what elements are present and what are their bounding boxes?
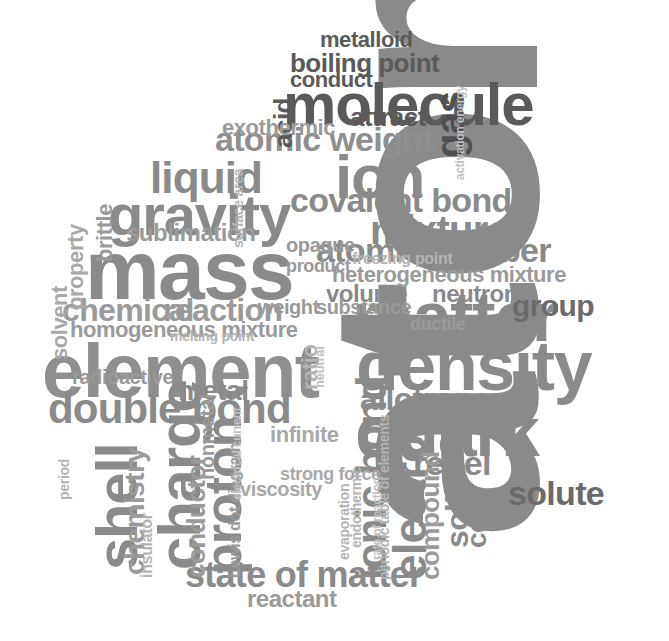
cloud-word-property: property bbox=[66, 224, 86, 310]
cloud-word-electrical-current: electrical current bbox=[232, 408, 243, 500]
cloud-word-solute: solute bbox=[508, 478, 604, 509]
cloud-word-compound: compound bbox=[419, 451, 443, 580]
cloud-word-neutron: neutron bbox=[432, 283, 518, 305]
cloud-word-activation-energy: activation energy bbox=[455, 85, 466, 180]
cloud-word-neutral: neutral bbox=[314, 346, 326, 388]
cloud-word-strong-force: strong force bbox=[280, 466, 381, 483]
cloud-word-nonmetal: nonmetal bbox=[198, 394, 216, 480]
cloud-word-double-bond: double bond bbox=[48, 390, 291, 429]
cloud-word-substance: substance bbox=[316, 298, 411, 316]
word-cloud-canvas: atombondmasselementmatterdensityquarkmol… bbox=[0, 0, 669, 641]
cloud-word-group: group bbox=[512, 292, 594, 320]
cloud-word-opaque: opaque bbox=[286, 236, 355, 254]
cloud-word-allotrope: allotrope bbox=[360, 385, 489, 414]
cloud-word-surface-area: surface area bbox=[232, 169, 245, 248]
cloud-word-insulator: insulator bbox=[140, 513, 155, 578]
cloud-word-ductile: ductile bbox=[410, 316, 466, 333]
cloud-word-product: product bbox=[286, 258, 350, 275]
cloud-word-metalloid: metalloid bbox=[320, 30, 413, 50]
cloud-word-rate-of-reaction: rate of reaction bbox=[372, 477, 383, 560]
cloud-word-core: core bbox=[464, 491, 490, 548]
cloud-word-period: period bbox=[58, 459, 71, 500]
cloud-word-freezing-point: freezing point bbox=[352, 252, 452, 267]
cloud-word-melting-point: melting point bbox=[170, 330, 254, 343]
cloud-word-radioactive: radioactive bbox=[72, 368, 173, 386]
cloud-word-reactant: reactant bbox=[247, 588, 337, 610]
cloud-word-conduct: conduct bbox=[290, 70, 372, 90]
cloud-word-attract: attract bbox=[350, 106, 426, 130]
cloud-word-endothermic: endothermic bbox=[350, 467, 363, 548]
cloud-word-infinite: infinite bbox=[270, 425, 339, 445]
cloud-word-weight: weight bbox=[258, 298, 319, 316]
cloud-word-brittle: brittle bbox=[95, 204, 115, 262]
cloud-word-exothermic: exothermic bbox=[222, 118, 335, 138]
cloud-word-covalent-bond: covalent bond bbox=[290, 185, 512, 216]
